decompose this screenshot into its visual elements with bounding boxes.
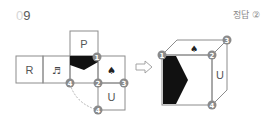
svg-text:4: 4 — [68, 80, 73, 88]
svg-text:4: 4 — [210, 102, 215, 110]
net-label-r: R — [26, 64, 34, 76]
spade-icon: ♠ — [107, 65, 116, 76]
svg-text:4: 4 — [96, 107, 101, 115]
net-marker-2: 2 — [94, 79, 103, 88]
cube-black-shape — [163, 56, 188, 104]
music-icon: ♬ — [52, 65, 61, 76]
net-fold-curve — [70, 84, 98, 110]
net-label-p: P — [80, 38, 87, 50]
cube-spade-icon: ♠ — [190, 44, 198, 54]
svg-text:1: 1 — [95, 54, 100, 62]
cube-label-u: U — [216, 69, 224, 81]
svg-text:2: 2 — [210, 52, 215, 60]
cube-marker-3: 3 — [223, 36, 232, 45]
net-marker-4a: 4 — [66, 79, 75, 88]
svg-text:1: 1 — [160, 52, 165, 60]
svg-text:3: 3 — [225, 37, 230, 45]
net-marker-4b: 4 — [94, 106, 103, 115]
diagram-canvas: P R ♬ ♠ U 1 2 3 4 4 ♠ U 1 — [0, 0, 270, 128]
svg-text:2: 2 — [96, 80, 101, 88]
net-marker-1: 1 — [93, 53, 102, 62]
arrow-right-icon — [136, 61, 152, 73]
cube-marker-2: 2 — [208, 51, 217, 60]
net-label-u: U — [108, 91, 116, 103]
svg-text:3: 3 — [122, 80, 127, 88]
cube-marker-4: 4 — [208, 101, 217, 110]
cube-marker-1: 1 — [158, 51, 167, 60]
net-marker-3: 3 — [120, 79, 129, 88]
